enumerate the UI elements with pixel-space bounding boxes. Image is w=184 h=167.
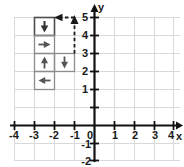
y-tick-label: -1 bbox=[81, 138, 91, 150]
coordinate-grid-figure: -4 -3 -2 -1 0 1 2 3 4 5 4 3 2 1 -1 -2 x … bbox=[0, 0, 184, 167]
y-tick-label: 4 bbox=[82, 29, 89, 41]
y-tick-label: -2 bbox=[81, 155, 91, 167]
x-tick-label: -1 bbox=[70, 129, 80, 141]
x-axis-label: x bbox=[176, 130, 183, 142]
x-tick-label: 2 bbox=[132, 129, 138, 141]
x-tick-label: 4 bbox=[168, 129, 175, 141]
coordinate-plane-svg: -4 -3 -2 -1 0 1 2 3 4 5 4 3 2 1 -1 -2 x … bbox=[0, 0, 184, 167]
y-tick-label: 1 bbox=[82, 83, 88, 95]
y-axis-label: y bbox=[98, 1, 105, 13]
y-tick-label: 5 bbox=[82, 11, 88, 23]
figure-background bbox=[0, 0, 184, 167]
x-tick-label: -4 bbox=[9, 129, 20, 141]
x-tick-label: -3 bbox=[29, 129, 39, 141]
x-tick-label: 3 bbox=[152, 129, 158, 141]
x-tick-label: 1 bbox=[112, 129, 118, 141]
y-tick-label: 2 bbox=[82, 65, 88, 77]
x-tick-label: -2 bbox=[49, 129, 59, 141]
y-tick-label: 3 bbox=[82, 47, 88, 59]
